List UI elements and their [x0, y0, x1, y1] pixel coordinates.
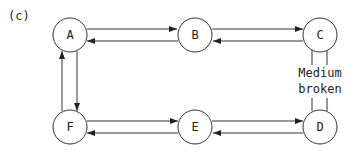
- node-e: E: [178, 110, 212, 144]
- node-b: B: [178, 18, 212, 52]
- node-b-label: B: [191, 28, 198, 42]
- node-d-label: D: [316, 120, 323, 134]
- node-f-label: F: [66, 120, 73, 134]
- figure-label: (c): [8, 9, 30, 23]
- node-e-label: E: [191, 120, 198, 134]
- node-d: D: [303, 110, 337, 144]
- broken-link-label-line1: Medium: [298, 66, 341, 80]
- node-a-label: A: [66, 28, 74, 42]
- ring-network-diagram: (c) Medium broken A B C D E F: [0, 0, 362, 154]
- broken-link-label-line2: broken: [298, 82, 341, 96]
- node-c-label: C: [316, 28, 323, 42]
- node-f: F: [53, 110, 87, 144]
- node-c: C: [303, 18, 337, 52]
- node-a: A: [53, 18, 87, 52]
